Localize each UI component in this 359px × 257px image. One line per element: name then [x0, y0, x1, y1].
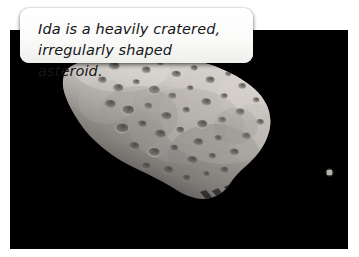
moon-dactyl-icon [325, 168, 334, 177]
caption-text: Ida is a heavily cratered, irregularly s… [32, 15, 241, 82]
image-canvas: Ida is a heavily cratered, irregularly s… [0, 0, 359, 257]
caption-callout: Ida is a heavily cratered, irregularly s… [20, 8, 253, 63]
